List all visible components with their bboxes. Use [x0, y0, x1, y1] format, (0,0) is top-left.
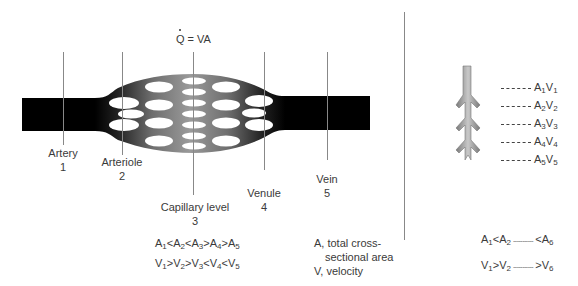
area-relation: A1<A2<A3>A4>A5: [155, 236, 240, 250]
legend: A, total cross- sectional area V, veloci…: [314, 236, 394, 278]
label-arteriole: Arteriole 2: [92, 155, 152, 183]
velocity-relation: V1>V2>V3<V4<V5: [155, 256, 240, 270]
level-label-1: A1V1: [501, 81, 558, 93]
vein-vessel: [280, 96, 370, 130]
level-label-3: A3V3: [501, 117, 558, 129]
artery-vessel: [22, 98, 102, 131]
branching-vessel: [456, 66, 480, 160]
label-artery: Artery 1: [38, 146, 88, 174]
q-dot-symbol: Q: [176, 32, 185, 46]
right-area-relation: A1<A2-----------<A6: [481, 232, 553, 248]
label-capillary: Capillary level 3: [155, 200, 235, 228]
flow-formula: Q = VA: [176, 32, 211, 46]
level-label-2: A2V2: [501, 99, 558, 111]
level-label-5: A5V5: [501, 153, 558, 165]
label-vein: Vein 5: [302, 172, 352, 200]
right-velocity-relation: V1>V2----------->V6: [481, 258, 553, 274]
label-venule: Venule 4: [239, 186, 289, 214]
level-label-4: A4V4: [501, 135, 558, 147]
